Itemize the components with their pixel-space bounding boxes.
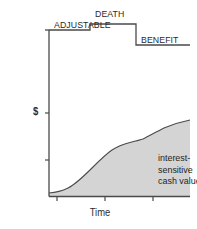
death-benefit-benefit-label: BENEFIT bbox=[141, 35, 179, 45]
death-benefit-death-label: DEATH bbox=[95, 9, 124, 19]
x-axis-label: Time bbox=[90, 208, 111, 218]
insurance-chart-figure: ADJUSTABLE DEATH BENEFIT $ Time interest… bbox=[0, 0, 197, 229]
death-benefit-adjustable-label: ADJUSTABLE bbox=[54, 20, 111, 30]
y-axis-label: $ bbox=[33, 107, 38, 117]
